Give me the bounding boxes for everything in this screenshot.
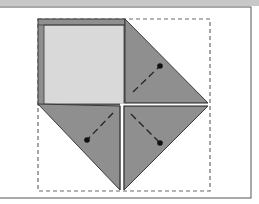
fold-dot — [84, 137, 90, 143]
unfolded-corner — [38, 19, 125, 105]
light-inner-square — [44, 25, 124, 104]
fold-dot — [157, 140, 163, 146]
origami-diagram — [0, 0, 259, 204]
fold-dot — [157, 63, 163, 69]
top-band — [0, 0, 259, 6]
